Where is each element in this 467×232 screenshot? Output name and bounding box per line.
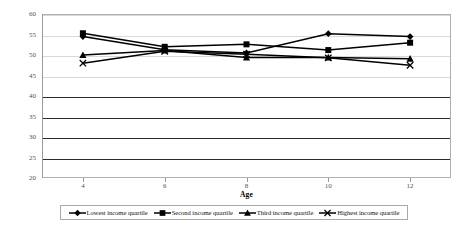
legend-label: Lowest income quartile xyxy=(87,209,148,216)
x-tick-label-12: 12 xyxy=(395,182,425,190)
legend-label: Third income quartile xyxy=(257,209,313,216)
data-point-marker xyxy=(244,41,250,47)
data-point-marker xyxy=(80,30,86,36)
triangle-marker-icon xyxy=(239,208,256,218)
legend-item-3[interactable]: Highest income quartile xyxy=(319,208,399,218)
y-tick-label-20: 20 xyxy=(0,175,36,182)
diamond-marker-icon xyxy=(69,208,86,218)
y-tick-label-55: 55 xyxy=(0,31,36,38)
square-marker-icon xyxy=(154,208,171,218)
x-axis-title: Age xyxy=(42,190,451,199)
y-tick-label-45: 45 xyxy=(0,72,36,79)
y-tick-label-30: 30 xyxy=(0,134,36,141)
y-tick-label-35: 35 xyxy=(0,113,36,120)
x-tick-label-8: 8 xyxy=(232,182,262,190)
data-point-marker xyxy=(325,47,331,53)
y-tick-label-60: 60 xyxy=(0,11,36,18)
legend-item-0[interactable]: Lowest income quartile xyxy=(69,208,148,218)
y-tick-label-40: 40 xyxy=(0,93,36,100)
x-tick-label-10: 10 xyxy=(313,182,343,190)
x-tick-label-6: 6 xyxy=(150,182,180,190)
data-point-marker xyxy=(407,40,413,46)
chart-legend: Lowest income quartileSecond income quar… xyxy=(60,205,408,220)
y-tick-label-50: 50 xyxy=(0,52,36,59)
legend-item-2[interactable]: Third income quartile xyxy=(239,208,313,218)
legend-label: Highest income quartile xyxy=(337,209,399,216)
line-chart: Score percentile 605550454035302520 4681… xyxy=(0,0,467,232)
cross-marker-icon xyxy=(319,208,336,218)
x-tick-label-4: 4 xyxy=(68,182,98,190)
legend-item-1[interactable]: Second income quartile xyxy=(154,208,233,218)
y-tick-label-25: 25 xyxy=(0,154,36,161)
legend-label: Second income quartile xyxy=(172,209,233,216)
data-series-layer xyxy=(42,14,451,178)
data-point-marker xyxy=(407,33,414,40)
data-point-marker xyxy=(325,30,332,37)
